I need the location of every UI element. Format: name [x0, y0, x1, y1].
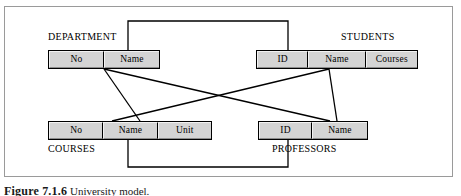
attribute-professors-name[interactable]: Name — [312, 122, 367, 139]
entity-caption-students: STUDENTS — [341, 31, 395, 42]
attribute-department-no[interactable]: No — [49, 51, 104, 68]
figure-caption: Figure 7.1.6 University model. — [4, 184, 453, 196]
attribute-courses-unit[interactable]: Unit — [158, 122, 211, 139]
figure-university-model: DEPARTMENT No Name STUDENTS ID Name Cour… — [0, 0, 461, 196]
entity-caption-department: DEPARTMENT — [48, 31, 117, 42]
attribute-students-name[interactable]: Name — [308, 51, 365, 68]
entity-caption-courses: COURSES — [48, 143, 95, 154]
attribute-professors-id[interactable]: ID — [259, 122, 312, 139]
attribute-students-courses[interactable]: Courses — [366, 51, 417, 68]
entity-professors[interactable]: ID Name — [258, 121, 368, 140]
attribute-department-name[interactable]: Name — [104, 51, 159, 68]
attribute-courses-name[interactable]: Name — [103, 122, 157, 139]
entity-courses[interactable]: No Name Unit — [48, 121, 212, 140]
attribute-students-id[interactable]: ID — [257, 51, 308, 68]
entity-students[interactable]: ID Name Courses — [256, 50, 418, 69]
attribute-courses-no[interactable]: No — [49, 122, 103, 139]
figure-caption-label: Figure 7.1.6 — [4, 184, 67, 196]
entity-caption-professors: PROFESSORS — [272, 143, 337, 154]
figure-caption-text: University model. — [70, 185, 149, 196]
entity-department[interactable]: No Name — [48, 50, 160, 69]
